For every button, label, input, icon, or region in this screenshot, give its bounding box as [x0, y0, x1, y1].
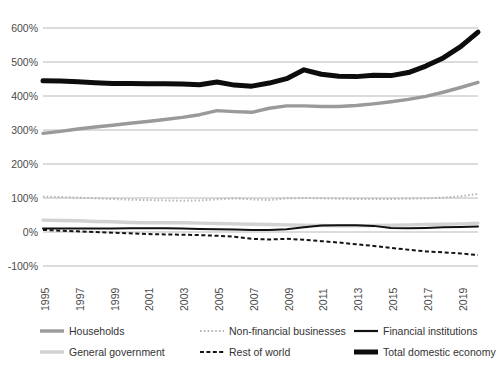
- legend-item-financial-institutions[interactable]: Financial institutions: [354, 321, 478, 341]
- plot-svg: [43, 28, 478, 266]
- x-tick-label: 1999: [109, 269, 121, 311]
- legend-label: General government: [69, 346, 165, 358]
- chart-legend: Households Non-financial businesses Fina…: [32, 321, 488, 369]
- legend-item-households[interactable]: Households: [40, 321, 124, 341]
- legend-label: Non-financial businesses: [229, 325, 346, 337]
- legend-swatch-financial-institutions: [354, 325, 378, 337]
- y-tick-label: 400%: [0, 91, 38, 101]
- legend-swatch-non-financial-businesses: [200, 325, 224, 337]
- series-line-non-financial-businesses: [43, 194, 478, 201]
- series-line-rest-of-world: [43, 230, 478, 255]
- legend-label: Financial institutions: [383, 325, 478, 337]
- legend-row: Households Non-financial businesses Fina…: [32, 321, 488, 341]
- x-tick-label: 2017: [422, 269, 434, 311]
- x-tick-label: 2007: [248, 269, 260, 311]
- x-tick-label: 2003: [178, 269, 190, 311]
- legend-swatch-total-domestic-economy: [354, 346, 378, 358]
- series-line-households: [43, 82, 478, 133]
- x-axis: 1995199719992001200320052007200920112013…: [43, 269, 483, 315]
- series-line-total-domestic-economy: [43, 32, 478, 86]
- legend-item-non-financial-businesses[interactable]: Non-financial businesses: [200, 321, 346, 341]
- x-tick-label: 2009: [283, 269, 295, 311]
- y-tick-label: 500%: [0, 57, 38, 67]
- y-tick-label: 100%: [0, 193, 38, 203]
- y-tick-label: 200%: [0, 159, 38, 169]
- legend-swatch-rest-of-world: [200, 346, 224, 358]
- x-tick-label: 2015: [387, 269, 399, 311]
- plot-area: [43, 28, 478, 266]
- legend-label: Rest of world: [229, 346, 290, 358]
- legend-swatch-households: [40, 325, 64, 337]
- legend-label: Households: [69, 325, 124, 337]
- y-tick-label: -100%: [0, 261, 38, 271]
- x-tick-label: 2011: [317, 269, 329, 311]
- x-tick-label: 1997: [74, 269, 86, 311]
- legend-row: General government Rest of world Total d…: [32, 342, 488, 362]
- x-tick-label: 1995: [39, 269, 51, 311]
- legend-item-total-domestic-economy[interactable]: Total domestic economy: [354, 342, 496, 362]
- legend-item-rest-of-world[interactable]: Rest of world: [200, 342, 290, 362]
- y-tick-label: 300%: [0, 125, 38, 135]
- x-tick-label: 2005: [213, 269, 225, 311]
- chart-title: [0, 0, 494, 8]
- legend-label: Total domestic economy: [383, 346, 496, 358]
- series-line-general-government: [43, 220, 478, 226]
- legend-swatch-general-government: [40, 346, 64, 358]
- y-tick-label: 600%: [0, 23, 38, 33]
- x-tick-label: 2013: [352, 269, 364, 311]
- y-axis: 600%500%400%300%200%100%0%-100%: [0, 0, 38, 300]
- x-tick-label: 2001: [143, 269, 155, 311]
- legend-item-general-government[interactable]: General government: [40, 342, 165, 362]
- x-tick-label: 2019: [457, 269, 469, 311]
- y-tick-label: 0%: [0, 227, 38, 237]
